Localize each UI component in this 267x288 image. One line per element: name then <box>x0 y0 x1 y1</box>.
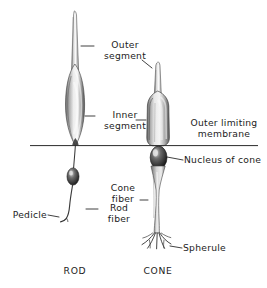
caption-cone: CONE <box>128 265 188 276</box>
rod-fiber-upper <box>74 145 76 168</box>
rod-and-cone-diagram: Outer segment Inner segment Outer limiti… <box>0 0 267 288</box>
label-pedicle: Pedicle <box>0 210 47 221</box>
rod-nucleus <box>67 168 79 185</box>
leader-outer-segment-cone <box>142 60 152 68</box>
leader-nucleus-of-cone <box>167 157 183 160</box>
label-inner-segment: Inner segment <box>96 110 154 131</box>
rod-cell <box>61 11 85 222</box>
label-nucleus-of-cone: Nucleus of cone <box>184 155 261 166</box>
label-spherule: Spherule <box>183 243 226 254</box>
label-cone-fiber: Cone fiber <box>104 183 142 204</box>
label-rod-fiber: Rod fiber <box>99 203 139 224</box>
leader-pedicle <box>48 215 59 217</box>
rod-fiber <box>66 185 72 219</box>
cone-cell <box>142 62 171 249</box>
rod-inner-segment <box>65 64 84 146</box>
caption-rod: ROD <box>45 265 105 276</box>
cone-spherule <box>142 233 171 249</box>
label-outer-limiting-membrane: Outer limiting membrane <box>182 118 266 139</box>
rod-outer-segment <box>72 11 79 70</box>
cone-nucleus <box>150 146 167 169</box>
label-outer-segment: Outer segment <box>95 40 155 61</box>
leader-spherule <box>170 246 182 248</box>
rod-pedicle <box>61 218 68 222</box>
